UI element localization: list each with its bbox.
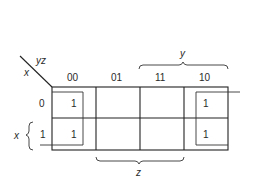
karnaugh-map: yz x 00 01 11 10 y 0 1 x 1 1 1 1 z [0, 0, 258, 188]
x-brace-label: x [13, 130, 20, 141]
col-header-10: 10 [199, 72, 211, 83]
col-header-01: 01 [111, 72, 123, 83]
col-header-00: 00 [67, 72, 79, 83]
col-header-11: 11 [155, 72, 166, 83]
y-brace [139, 62, 228, 69]
x-brace [26, 122, 33, 150]
row-header-1: 1 [40, 129, 46, 140]
row-header-0: 0 [39, 98, 45, 109]
col-var-label: yz [35, 55, 46, 66]
y-brace-label: y [179, 48, 186, 59]
z-brace [96, 157, 184, 164]
z-brace-label: z [135, 167, 141, 178]
cell-1-00: 1 [71, 129, 77, 140]
cell-0-00: 1 [71, 98, 77, 109]
row-var-label: x [23, 67, 30, 78]
cell-1-10: 1 [203, 129, 209, 140]
cell-0-10: 1 [203, 98, 209, 109]
